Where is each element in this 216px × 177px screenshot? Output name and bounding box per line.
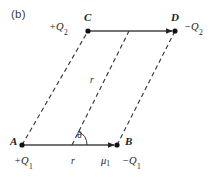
charge-symbol-b: Q xyxy=(129,155,137,166)
distance-label-diagonal: r xyxy=(90,76,94,86)
dashed-line-diagonal-r xyxy=(72,31,129,145)
physics-figure: (b) A B C D +Q1 −Q1 +Q2 −Q2 μ1 r r θ xyxy=(0,0,216,177)
charge-symbol-a: Q xyxy=(21,155,29,166)
distance-label-baseline: r xyxy=(71,157,75,167)
dashed-line-ac xyxy=(22,31,88,145)
dipole-moment-label: μ1 xyxy=(101,156,110,167)
vertex-label-c: C xyxy=(84,12,91,23)
solid-arrows-group xyxy=(22,31,172,145)
charge-subscript-c: 2 xyxy=(64,28,68,37)
vertex-dot-c xyxy=(85,28,90,33)
charge-label-a: +Q1 xyxy=(14,156,32,169)
vertex-dot-a xyxy=(19,142,24,147)
vertex-dot-d xyxy=(172,28,177,33)
charge-subscript-d: 2 xyxy=(199,28,203,37)
dashed-lines-group xyxy=(22,31,175,145)
dashed-line-bd xyxy=(117,31,175,145)
charge-label-d: −Q2 xyxy=(184,22,202,35)
charge-symbol-c: Q xyxy=(56,21,64,32)
mu-subscript: 1 xyxy=(106,159,110,168)
vertex-dots-group xyxy=(19,28,177,147)
vertex-dot-b xyxy=(114,142,119,147)
charge-subscript-a: 1 xyxy=(29,162,33,171)
angle-label-theta: θ xyxy=(77,130,82,140)
charge-label-c: +Q2 xyxy=(49,22,67,35)
charge-subscript-b: 1 xyxy=(137,162,141,171)
vertex-label-b: B xyxy=(125,136,132,147)
vertex-label-d: D xyxy=(171,12,179,23)
charge-label-b: −Q1 xyxy=(122,156,140,169)
charge-symbol-d: Q xyxy=(191,21,199,32)
panel-label: (b) xyxy=(11,9,26,21)
vertex-label-a: A xyxy=(10,136,17,147)
